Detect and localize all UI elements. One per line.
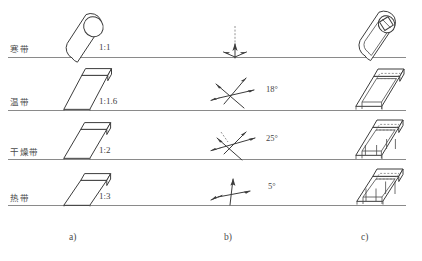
orientation-diagram [206, 171, 268, 211]
zone-label: 寒带 [10, 42, 29, 54]
caption-b: b) [224, 232, 232, 242]
orientation-diagram [212, 24, 258, 60]
angle-label: 5° [268, 181, 276, 191]
orientation-diagram [206, 70, 268, 114]
diagram-row: 寒带 1:1 [0, 0, 422, 58]
form-c-shape [352, 7, 400, 59]
form-a-shape [58, 66, 114, 112]
climate-form-diagram: 寒带 1:1 温带 1:1.6 18° [0, 0, 422, 261]
form-a-shape [58, 169, 114, 209]
caption-c: c) [361, 232, 368, 242]
zone-label: 热带 [10, 191, 29, 203]
diagram-row: 热带 1:3 5° [0, 159, 422, 205]
diagram-row: 干燥带 1:2 25° [0, 110, 422, 159]
caption-a: a) [69, 232, 76, 242]
form-c-shape [352, 163, 406, 207]
diagram-row: 温带 1:1.6 18° [0, 58, 422, 110]
form-a-shape [58, 119, 114, 161]
zone-label: 干燥带 [10, 145, 39, 157]
form-a-shape [58, 8, 110, 60]
form-c-shape [352, 64, 406, 112]
form-c-shape [352, 115, 406, 161]
zone-label: 温带 [10, 95, 29, 107]
orientation-diagram [206, 122, 268, 164]
